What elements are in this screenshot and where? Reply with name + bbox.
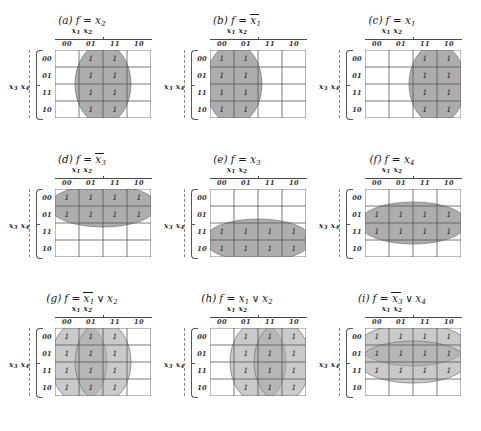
kmap-grid: 111111111111 [365,328,461,396]
row-header-01: 01 [194,206,208,223]
kmap-grid: 11111111 [55,50,151,118]
kmap-panel-e: (e)f = x3x1 x200011110x3 x40001111011111… [162,153,312,291]
variable: x1 [239,292,250,304]
kmap-cell-11-11: 1 [258,223,282,240]
kmap-cell-00-01: 1 [79,50,103,67]
kmap-cell-00-01 [389,189,413,206]
kmap-cell-01-10: 1 [437,206,461,223]
kmap-panel-h: (h)f = x1∨x2x1 x200011110x3 x40001111011… [162,292,312,430]
kmap-grid: 11111111 [210,50,306,118]
kmap-cell-10-00 [55,240,79,257]
kmap-cell-11-00: 1 [55,362,79,379]
kmap-cell-01-00 [365,67,389,84]
kmap-cell-11-11: 1 [413,84,437,101]
kmap-cell-00-10: 1 [282,328,306,345]
kmap-cell-11-11: 1 [413,223,437,240]
column-header-10: 10 [437,318,461,327]
kmap-cell-00-10 [127,328,151,345]
kmap-cell-10-01: 1 [234,379,258,396]
panel-tag: (c) [368,14,382,26]
function-expression: f = x1 [386,14,416,26]
kmap-cell-10-01 [79,240,103,257]
column-header-01: 01 [79,179,103,188]
or-operator: ∨ [97,292,105,304]
variable: x4 [415,292,426,304]
function-expression: f = x1∨x2 [219,292,272,304]
kmap-cell-10-11 [413,379,437,396]
kmap-cell-01-00 [210,345,234,362]
variable: x2 [262,292,273,304]
kmap-cell-10-01: 1 [234,101,258,118]
column-variable-label: x1 x2 [162,26,312,35]
kmap-cell-10-10 [437,379,461,396]
kmap-cell-01-01: 1 [79,206,103,223]
panel-tag: (i) [358,292,370,304]
kmap-cell-11-01: 1 [389,362,413,379]
kmap-cell-01-01 [234,206,258,223]
column-header-11: 11 [103,179,127,188]
row-guide-dashed-line [29,328,30,396]
kmap-cell-10-11: 1 [413,101,437,118]
kmap-cell-00-11: 1 [103,189,127,206]
panel-tag: (g) [46,292,61,304]
kmap-cell-01-11 [258,67,282,84]
kmap-cell-10-10 [127,379,151,396]
kmap-cell-11-01: 1 [79,362,103,379]
row-header-01: 01 [39,345,53,362]
function-expression: f = x1∨x2 [64,292,117,304]
kmap-cell-11-11 [258,84,282,101]
kmap-cell-01-01 [389,67,413,84]
function-expression: f = x3 [76,153,106,165]
kmap-cell-01-00 [210,206,234,223]
function-expression: f = x3 [231,153,261,165]
kmap-cell-10-10: 1 [282,379,306,396]
kmap-cells: 11111111 [55,189,151,257]
column-headers: 00011110 [365,318,461,327]
kmap-cell-01-11: 1 [413,67,437,84]
row-header-10: 10 [39,240,53,257]
kmap-cell-01-00: 1 [365,345,389,362]
column-headers: 00011110 [55,40,151,49]
column-header-00: 00 [365,179,389,188]
kmap-cell-00-11: 1 [258,328,282,345]
row-variable-label: x3 x4 [319,82,340,91]
function-expression: f = x1 [231,14,261,26]
kmap-cell-10-00: 1 [210,101,234,118]
kmap-cell-00-11 [258,189,282,206]
kmap-cell-11-11: 1 [103,362,127,379]
kmap-cell-11-00: 1 [210,84,234,101]
kmap-cell-01-00: 1 [55,206,79,223]
column-header-01: 01 [79,40,103,49]
column-header-00: 00 [55,179,79,188]
row-header-11: 11 [39,362,53,379]
row-header-11: 11 [349,223,363,240]
kmap-cell-00-11: 1 [413,328,437,345]
column-header-10: 10 [127,179,151,188]
column-headers: 00011110 [210,179,306,188]
column-header-01: 01 [389,40,413,49]
column-header-00: 00 [55,318,79,327]
kmap-cell-01-10 [127,67,151,84]
kmap-cell-01-00 [55,67,79,84]
row-header-11: 11 [349,362,363,379]
kmap-cell-01-10: 1 [437,67,461,84]
kmap-cell-00-10 [282,50,306,67]
column-header-11: 11 [413,318,437,327]
kmap-cell-10-00 [365,379,389,396]
kmap-cell-01-00: 1 [210,67,234,84]
kmap-cell-00-10 [282,189,306,206]
kmap-cell-11-01: 1 [234,223,258,240]
column-header-10: 10 [282,40,306,49]
kmap-cell-11-00: 1 [210,223,234,240]
row-guide-dashed-line [29,189,30,257]
kmap-panel-f: (f)f = x4x1 x200011110x3 x40001111011111… [317,153,467,291]
kmap-cell-11-10: 1 [437,223,461,240]
row-guide-dashed-line [184,50,185,118]
kmap-cell-00-11 [413,189,437,206]
kmap-grid: 111111111111 [55,328,151,396]
row-headers: 00011110 [349,189,363,257]
row-header-00: 00 [349,328,363,345]
column-header-11: 11 [258,318,282,327]
row-header-11: 11 [39,223,53,240]
kmap-cell-00-00: 1 [55,328,79,345]
